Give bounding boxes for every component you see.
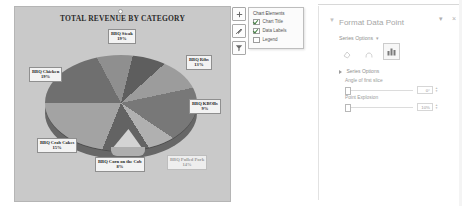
pane-title: Format Data Point (339, 18, 404, 27)
flyout-title: Chart Elements (253, 11, 300, 16)
series-options-icon[interactable] (383, 43, 400, 60)
flyout-item-label: Chart Title (263, 19, 284, 24)
flyout-item-data-labels[interactable]: Data Labels (253, 28, 300, 35)
spinner-down-icon[interactable]: ▼ (435, 107, 438, 110)
data-label-name: BBQ Corn on the Cob (98, 159, 142, 164)
chart-title[interactable]: TOTAL REVENUE BY CATEGORY (15, 14, 230, 23)
slider-knob[interactable] (345, 87, 351, 95)
angle-of-first-slice-value[interactable]: 0° (417, 86, 433, 94)
pane-options-arrow-icon[interactable]: ▾ (439, 15, 443, 23)
chart-elements-button[interactable] (232, 7, 246, 21)
flyout-item-label: Data Labels (263, 28, 287, 33)
explosion-spinner-arrows[interactable]: ▲ ▼ (435, 104, 438, 110)
checkbox-icon[interactable] (253, 19, 260, 26)
point-explosion-value[interactable]: 10% (417, 103, 433, 111)
angle-of-first-slice-label: Angle of first slice (345, 78, 455, 83)
flyout-item-label: Legend (263, 37, 278, 42)
data-label-name: BBQ Steak (111, 31, 133, 36)
data-label-bbq-ribs[interactable]: BBQ Ribs 13% (186, 55, 212, 70)
data-label-bbq-kbobs[interactable]: BBQ KBOBs 9% (189, 99, 221, 114)
series-options-dropdown[interactable]: Series Options ▾ (339, 35, 379, 41)
series-options-dropdown-label: Series Options (339, 35, 373, 41)
data-label-name: BBQ Crab Cakes (40, 140, 74, 145)
checkbox-icon[interactable] (253, 37, 260, 44)
angle-of-first-slice-field: Angle of first slice 0° ▲ ▼ (345, 78, 455, 94)
pie-exploded-slice-side (111, 147, 145, 156)
data-label-name: BBQ KBOBs (192, 101, 218, 106)
data-label-name: BBQ Chicken (32, 69, 59, 74)
data-label-bbq-corn-on-the-cob[interactable]: BBQ Corn on the Cob 8% (95, 157, 145, 172)
data-label-pct: 13% (189, 62, 209, 67)
series-options-section-header[interactable]: Series Options (339, 68, 379, 74)
angle-spinner-arrows[interactable]: ▲ ▼ (435, 87, 438, 93)
slider-track (345, 107, 413, 108)
chart-filters-button[interactable] (232, 41, 246, 55)
series-options-section-label: Series Options (346, 68, 379, 74)
data-label-name: BBQ Pulled Pork (170, 157, 204, 162)
data-label-pct: 19% (111, 36, 133, 41)
fill-line-icon[interactable] (339, 45, 354, 60)
spinner-down-icon[interactable]: ▼ (435, 90, 438, 93)
slider-knob[interactable] (345, 104, 351, 112)
chart-object[interactable]: TOTAL REVENUE BY CATEGORY BBQ Steak 19% … (14, 6, 231, 202)
data-label-pct: 9% (192, 106, 218, 111)
data-label-bbq-pulled-pork[interactable]: BBQ Pulled Pork 14% (167, 155, 207, 170)
data-label-bbq-steak[interactable]: BBQ Steak 19% (108, 29, 136, 44)
pane-top-divider (318, 4, 461, 5)
point-explosion-label: Point Explosion (345, 95, 455, 100)
pane-close-icon[interactable]: × (452, 15, 456, 22)
data-label-pct: 8% (98, 164, 142, 169)
flyout-item-chart-title[interactable]: Chart Title (253, 19, 300, 26)
point-explosion-slider[interactable] (345, 103, 413, 111)
data-label-pct: 19% (32, 74, 59, 79)
data-label-name: BBQ Ribs (189, 57, 209, 62)
excel-chart-editing-screen: TOTAL REVENUE BY CATEGORY BBQ Steak 19% … (0, 0, 462, 206)
chart-quick-buttons (232, 7, 245, 58)
chart-elements-flyout[interactable]: Chart Elements Chart Title Data Labels L… (248, 7, 304, 49)
format-data-point-pane: ▼ Format Data Point ▾ × Series Options ▾ (318, 6, 462, 200)
data-label-bbq-chicken[interactable]: BBQ Chicken 19% (29, 67, 62, 82)
angle-of-first-slice-slider[interactable] (345, 86, 413, 94)
chart-styles-button[interactable] (232, 24, 246, 38)
point-explosion-field: Point Explosion 10% ▲ ▼ (345, 95, 455, 111)
slider-track (345, 90, 413, 91)
data-label-pct: 14% (170, 162, 204, 167)
flyout-item-legend[interactable]: Legend (253, 37, 300, 44)
triangle-right-icon (339, 70, 342, 74)
data-label-bbq-crab-cakes[interactable]: BBQ Crab Cakes 15% (37, 138, 77, 153)
effects-icon[interactable] (361, 45, 376, 60)
format-pane-icon-tabs (339, 43, 400, 60)
pie-slices[interactable] (45, 55, 197, 151)
checkbox-icon[interactable] (253, 28, 260, 35)
data-label-pct: 15% (40, 145, 74, 150)
chevron-down-icon: ▾ (376, 36, 379, 41)
